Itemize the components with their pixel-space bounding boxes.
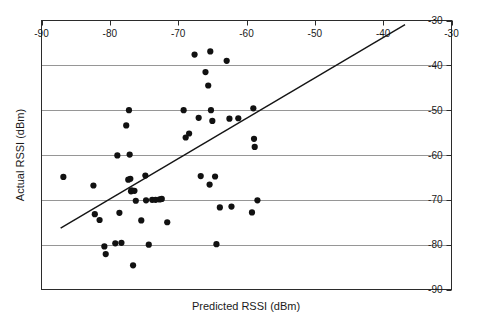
- y-tick-label: -80: [428, 239, 443, 250]
- y-tick-label: -70: [428, 194, 443, 205]
- y-axis-title: Actual RSSI (dBm): [14, 109, 26, 201]
- x-axis-tickmarks: [43, 21, 453, 26]
- scatter-point: [60, 174, 66, 180]
- scatter-point: [133, 198, 139, 204]
- scatter-point: [123, 122, 129, 128]
- scatter-point: [96, 217, 102, 223]
- scatter-point: [224, 58, 230, 64]
- y-axis-tickmarks: [447, 22, 452, 291]
- y-tick-label: -50: [428, 105, 443, 116]
- scatter-point: [213, 241, 219, 247]
- horizontal-gridlines: [42, 66, 452, 246]
- scatter-point: [103, 251, 109, 257]
- scatter-point: [181, 107, 187, 113]
- scatter-point: [127, 151, 133, 157]
- x-tick-label: -50: [308, 28, 323, 39]
- scatter-point: [114, 152, 120, 158]
- scatter-point: [251, 136, 257, 142]
- scatter-point: [254, 197, 260, 203]
- scatter-point: [205, 82, 211, 88]
- scatter-point: [131, 188, 137, 194]
- scatter-point: [118, 240, 124, 246]
- scatter-point: [92, 211, 98, 217]
- scatter-point: [198, 173, 204, 179]
- y-axis-tick-labels: -30-40-50-60-70-80-90: [428, 15, 443, 295]
- scatter-point: [212, 173, 218, 179]
- scatter-point: [112, 240, 118, 246]
- scatter-point: [159, 196, 165, 202]
- scatter-point: [196, 115, 202, 121]
- scatter-point: [164, 219, 170, 225]
- y-tick-label: -40: [428, 60, 443, 71]
- x-tick-label: -70: [171, 28, 186, 39]
- scatter-point: [217, 204, 223, 210]
- scatter-plot-figure: -90-80-70-60-50-40-30 -30-40-50-60-70-80…: [0, 0, 477, 321]
- scatter-point: [126, 107, 132, 113]
- scatter-point: [208, 107, 214, 113]
- scatter-point: [90, 182, 96, 188]
- scatter-point: [249, 209, 255, 215]
- scatter-point: [186, 130, 192, 136]
- x-tick-label: -80: [103, 28, 118, 39]
- scatter-point: [202, 69, 208, 75]
- scatter-point: [101, 243, 107, 249]
- scatter-point: [235, 115, 241, 121]
- scatter-point: [228, 203, 234, 209]
- y-tick-label: -60: [428, 150, 443, 161]
- regression-fit-line: [61, 25, 405, 229]
- x-tick-label: -30: [444, 28, 459, 39]
- x-tick-label: -60: [239, 28, 254, 39]
- fit-line: [61, 25, 405, 229]
- scatter-point: [252, 144, 258, 150]
- plot-canvas: -90-80-70-60-50-40-30 -30-40-50-60-70-80…: [0, 0, 477, 321]
- y-tick-label: -90: [428, 284, 443, 295]
- scatter-point: [142, 173, 148, 179]
- scatter-point: [116, 210, 122, 216]
- scatter-point: [143, 197, 149, 203]
- scatter-point: [127, 176, 133, 182]
- x-axis-title: Predicted RSSI (dBm): [192, 300, 300, 312]
- scatter-point: [207, 48, 213, 54]
- scatter-point: [146, 242, 152, 248]
- scatter-point: [250, 105, 256, 111]
- scatter-point: [138, 217, 144, 223]
- scatter-point: [209, 118, 215, 124]
- x-axis-tick-labels: -90-80-70-60-50-40-30: [34, 28, 459, 39]
- scatter-point: [130, 262, 136, 268]
- scatter-point: [226, 116, 232, 122]
- scatter-points: [60, 48, 260, 268]
- scatter-point: [207, 181, 213, 187]
- x-tick-label: -90: [34, 28, 49, 39]
- y-tick-label: -30: [428, 15, 443, 26]
- scatter-point: [191, 51, 197, 57]
